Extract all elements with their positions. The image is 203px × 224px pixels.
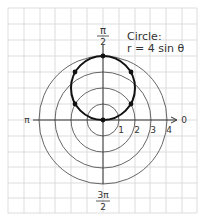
curve-equation: r = 4 sin θ xyxy=(127,42,184,55)
label-3pi-over-2-num: 3π xyxy=(97,190,109,200)
label-3pi-over-2-den: 2 xyxy=(100,202,106,212)
radial-tick-2: 2 xyxy=(134,125,140,135)
label-pi: π xyxy=(24,115,30,125)
radial-tick-4: 4 xyxy=(166,125,172,135)
label-pi-over-2-num: π xyxy=(100,25,106,36)
radial-tick-3: 3 xyxy=(150,125,156,135)
radial-tick-1: 1 xyxy=(118,125,124,135)
label-zero: 0 xyxy=(181,115,187,125)
label-pi-over-2-den: 2 xyxy=(100,37,106,47)
polar-graph: π 2 3π 2 π 0 1 2 3 4 Circle: r = 4 sin θ xyxy=(0,0,203,224)
